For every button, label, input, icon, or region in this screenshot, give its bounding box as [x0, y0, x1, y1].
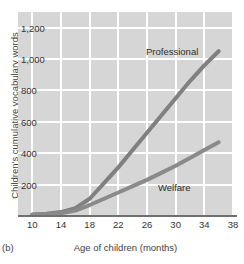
plot-area: 2004006008001,0001,200 ProfessionalWelfa…: [18, 12, 233, 216]
y-tick-label: 1,000: [21, 54, 45, 65]
panel-label: (b): [2, 242, 14, 253]
x-tick-label: 22: [113, 219, 124, 230]
x-tick-label: 18: [84, 219, 95, 230]
y-tick-label: 800: [21, 85, 37, 96]
x-tick-label: 10: [27, 219, 38, 230]
y-tick-label: 600: [21, 116, 37, 127]
x-tick-label: 26: [142, 219, 153, 230]
cut-off-title-fragment: [8, 0, 188, 5]
series-label-professional: Professional: [146, 46, 198, 57]
x-tick-label: 38: [228, 219, 239, 230]
x-tick-label: 14: [56, 219, 67, 230]
series-label-welfare: Welfare: [158, 182, 191, 193]
series-lines: [18, 12, 233, 216]
y-tick-label: 400: [21, 148, 37, 159]
y-tick-label: 200: [21, 179, 37, 190]
x-axis-title: Age of children (months): [18, 242, 233, 253]
x-tick-label: 34: [199, 219, 210, 230]
x-axis-line: [18, 215, 237, 217]
y-tick-label: 1,200: [21, 22, 45, 33]
series-line-welfare: [32, 142, 218, 214]
x-tick-label: 30: [170, 219, 181, 230]
